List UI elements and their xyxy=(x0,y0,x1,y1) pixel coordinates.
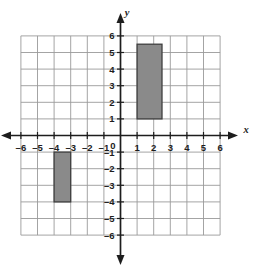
y-axis-up-arrow-icon xyxy=(117,13,125,23)
y-tick-label: 6 xyxy=(109,30,114,41)
coordinate-plane-figure: –6–5–4–3–2–1123456 654321–1–2–3–4–5–6 0 … xyxy=(0,0,267,268)
x-tick-label: 5 xyxy=(201,142,207,153)
y-tick-label: 2 xyxy=(109,97,114,108)
y-tick-label: –3 xyxy=(104,180,115,191)
y-tick-label: –4 xyxy=(104,196,115,207)
y-tick-label: –6 xyxy=(104,230,115,241)
x-tick-label: 2 xyxy=(151,142,156,153)
x-tick-label: –6 xyxy=(16,142,27,153)
x-tick-label: –3 xyxy=(65,142,76,153)
origin-label: 0 xyxy=(110,140,115,151)
y-axis-label: y xyxy=(123,7,130,18)
y-tick-label: 4 xyxy=(109,64,115,75)
coordinate-grid-plot: –6–5–4–3–2–1123456 654321–1–2–3–4–5–6 0 … xyxy=(0,0,267,268)
x-axis-label: x xyxy=(242,124,248,135)
y-tick-label: –5 xyxy=(104,213,115,224)
x-tick-label: –5 xyxy=(32,142,43,153)
y-tick-label: –2 xyxy=(104,163,115,174)
x-tick-label: 1 xyxy=(134,142,140,153)
lower-left-rectangle xyxy=(54,152,71,202)
upper-rectangle xyxy=(137,44,162,119)
x-tick-label: –4 xyxy=(49,142,60,153)
x-axis-right-arrow-icon xyxy=(228,132,238,140)
y-tick-label: 1 xyxy=(109,113,115,124)
axes xyxy=(1,13,238,265)
x-tick-label: –2 xyxy=(82,142,93,153)
x-axis-left-arrow-icon xyxy=(1,132,11,140)
y-tick-label: 3 xyxy=(109,80,114,91)
x-tick-label: 6 xyxy=(217,142,222,153)
x-tick-label: 4 xyxy=(184,142,190,153)
y-axis-down-arrow-icon xyxy=(117,255,125,265)
y-tick-label: 5 xyxy=(109,47,115,58)
x-tick-label: 3 xyxy=(168,142,173,153)
x-axis-tick-labels: –6–5–4–3–2–1123456 xyxy=(16,142,223,153)
